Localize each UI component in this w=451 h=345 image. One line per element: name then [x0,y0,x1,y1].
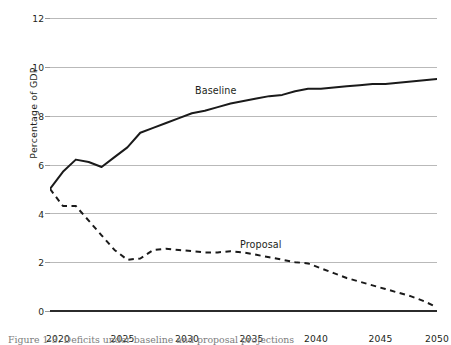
plot-area: Baseline Proposal 2020 2025 2030 2035 20… [50,18,437,311]
y-tick-label-4: 4 [16,210,44,219]
y-tick-label-10: 10 [16,63,44,72]
series-line-baseline [50,79,437,189]
series-label-baseline: Baseline [195,86,236,96]
y-tick-label-0: 0 [16,307,44,316]
y-tick-label-2: 2 [16,258,44,267]
figure-caption: Figure 1-3. Deficits under baseline and … [8,334,448,345]
y-tick-label-12: 12 [16,14,44,23]
y-tick-label-6: 6 [16,161,44,170]
y-tick-label-8: 8 [16,112,44,121]
series-label-proposal: Proposal [240,240,282,250]
series-svg [50,18,437,311]
chart-area: Percentage of GDP 12 10 8 6 4 2 0 [0,0,451,330]
